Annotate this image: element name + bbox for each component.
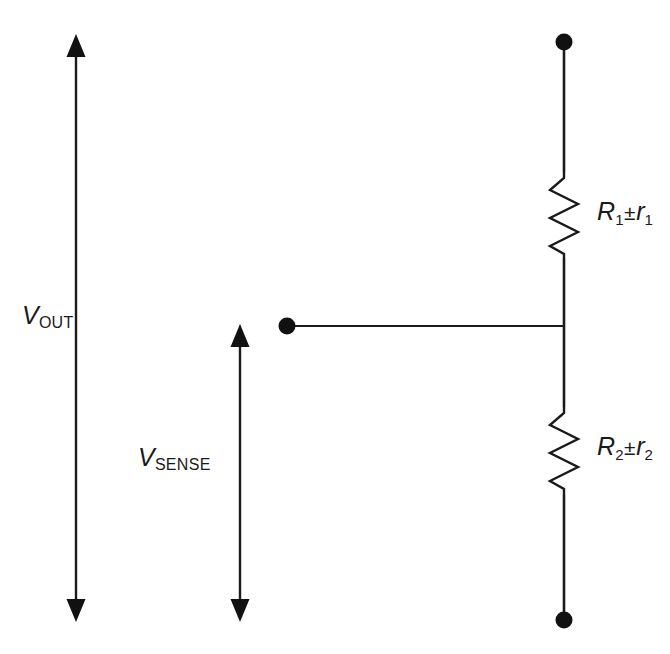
label-vout-subscript: OUT (39, 314, 74, 331)
label-r2-symbol: R (597, 432, 615, 460)
label-r2-tolerance-subscript: 2 (644, 446, 652, 463)
label-vsense-subscript: SENSE (155, 456, 211, 473)
label-vsense-symbol: V (138, 443, 155, 471)
label-vout: VOUT (22, 303, 74, 331)
label-resistor-r1: R1±r1 (597, 199, 653, 227)
divider-branch (550, 42, 578, 620)
label-r1-tolerance-subscript: 1 (644, 211, 652, 228)
label-vsense: VSENSE (138, 445, 211, 473)
arrow-vsense-head-up (231, 324, 250, 347)
label-r1-symbol: R (597, 197, 615, 225)
terminal-dot-top (556, 34, 573, 51)
arrow-vout-head-down (67, 599, 86, 622)
terminal-dot-bottom (556, 612, 573, 629)
circuit-schematic-canvas (0, 0, 670, 654)
label-vout-symbol: V (22, 301, 39, 329)
label-r2-operator: ± (624, 436, 637, 459)
resistor-r1-zigzag (550, 172, 578, 258)
arrow-vout-head-up (67, 34, 86, 57)
label-r2-subscript: 2 (615, 446, 623, 463)
dimension-arrow-vsense (231, 324, 250, 622)
label-r1-subscript: 1 (615, 211, 623, 228)
schematic-figure: VOUT VSENSE R1±r1 R2±r2 (0, 0, 670, 654)
label-r1-operator: ± (624, 201, 637, 224)
resistor-r2-zigzag (550, 407, 578, 495)
terminal-dot-mid-tap (279, 318, 296, 335)
label-resistor-r2: R2±r2 (597, 434, 653, 462)
arrow-vsense-head-down (231, 599, 250, 622)
